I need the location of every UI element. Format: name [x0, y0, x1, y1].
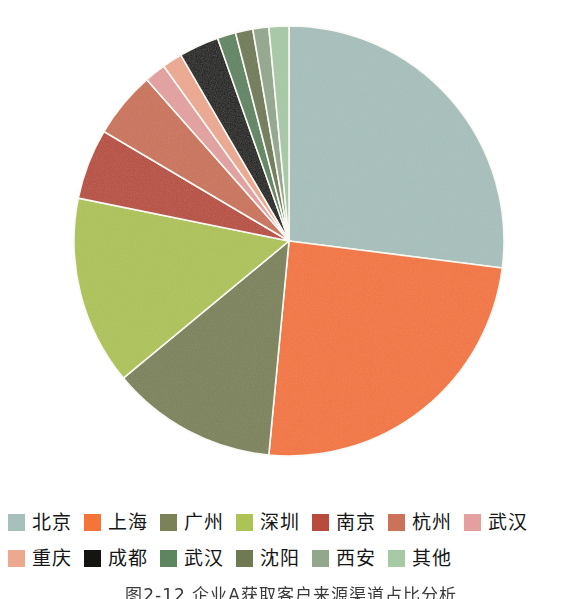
pie-chart-area	[0, 0, 582, 500]
legend-item-label: 广州	[184, 513, 223, 532]
legend-item-其他[interactable]: 其他	[388, 549, 451, 568]
legend-item-南京[interactable]: 南京	[312, 513, 375, 532]
legend-item-label: 重庆	[32, 549, 71, 568]
legend-swatch-icon	[236, 514, 253, 531]
chart-legend: 北京上海广州深圳南京杭州武汉 重庆成都武汉沈阳西安其他	[0, 500, 582, 578]
legend-item-label: 西安	[336, 549, 375, 568]
legend-swatch-icon	[8, 514, 25, 531]
legend-row-2: 重庆成都武汉沈阳西安其他	[8, 540, 576, 576]
legend-swatch-icon	[84, 514, 101, 531]
legend-swatch-icon	[160, 550, 177, 567]
figure-page: 北京上海广州深圳南京杭州武汉 重庆成都武汉沈阳西安其他 图2-12 企业A获取客…	[0, 0, 582, 599]
legend-item-武汉[interactable]: 武汉	[160, 549, 223, 568]
legend-swatch-icon	[312, 550, 329, 567]
legend-item-沈阳[interactable]: 沈阳	[236, 549, 299, 568]
legend-swatch-icon	[160, 514, 177, 531]
pie-slice	[269, 241, 503, 456]
legend-item-label: 沈阳	[260, 549, 299, 568]
legend-item-西安[interactable]: 西安	[312, 549, 375, 568]
legend-item-label: 深圳	[260, 513, 299, 532]
legend-swatch-icon	[84, 550, 101, 567]
legend-swatch-icon	[236, 550, 253, 567]
legend-item-广州[interactable]: 广州	[160, 513, 223, 532]
legend-swatch-icon	[388, 514, 405, 531]
pie-slice	[289, 26, 504, 268]
legend-item-深圳[interactable]: 深圳	[236, 513, 299, 532]
legend-swatch-icon	[388, 550, 405, 567]
legend-item-label: 北京	[32, 513, 71, 532]
legend-row-1: 北京上海广州深圳南京杭州武汉	[8, 504, 576, 540]
legend-item-武汉[interactable]: 武汉	[464, 513, 527, 532]
legend-swatch-icon	[464, 514, 481, 531]
legend-item-label: 其他	[412, 549, 451, 568]
legend-item-label: 上海	[108, 513, 147, 532]
legend-item-成都[interactable]: 成都	[84, 549, 147, 568]
legend-item-label: 南京	[336, 513, 375, 532]
legend-item-label: 武汉	[488, 513, 527, 532]
pie-slice-group	[74, 26, 504, 456]
legend-item-重庆[interactable]: 重庆	[8, 549, 71, 568]
legend-item-label: 成都	[108, 549, 147, 568]
legend-swatch-icon	[312, 514, 329, 531]
figure-caption-clip: 图2-12 企业A获取客户来源渠道占比分析	[0, 586, 582, 599]
legend-item-杭州[interactable]: 杭州	[388, 513, 451, 532]
legend-item-北京[interactable]: 北京	[8, 513, 71, 532]
pie-chart-svg	[0, 0, 582, 500]
legend-swatch-icon	[8, 550, 25, 567]
legend-item-label: 武汉	[184, 549, 223, 568]
figure-caption: 图2-12 企业A获取客户来源渠道占比分析	[0, 586, 582, 599]
legend-item-上海[interactable]: 上海	[84, 513, 147, 532]
legend-item-label: 杭州	[412, 513, 451, 532]
